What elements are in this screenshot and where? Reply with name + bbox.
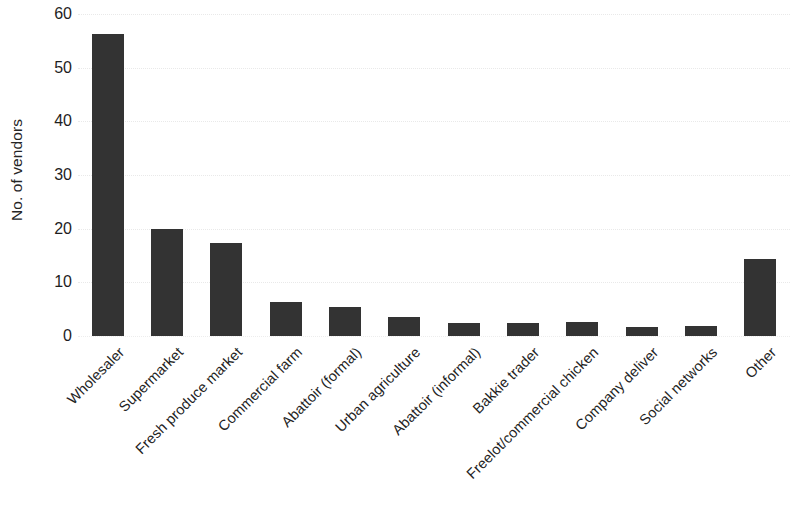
y-axis-tick-label: 50 <box>54 59 72 77</box>
y-axis-tick-label: 10 <box>54 273 72 291</box>
bar[interactable] <box>448 323 480 336</box>
plot-area <box>78 14 790 336</box>
y-axis-title: No. of vendors <box>0 0 34 340</box>
gridline <box>78 229 790 230</box>
gridline <box>78 282 790 283</box>
bar[interactable] <box>92 34 124 336</box>
x-axis-tick-label-text: Fresh produce market <box>133 344 246 457</box>
gridline <box>78 121 790 122</box>
y-axis-tick-label: 60 <box>54 5 72 23</box>
y-axis-tick-label: 40 <box>54 112 72 130</box>
bar[interactable] <box>685 326 717 336</box>
bar-chart: No. of vendors 0102030405060 WholesalerS… <box>0 0 799 529</box>
bar[interactable] <box>151 229 183 336</box>
bar[interactable] <box>566 322 598 336</box>
bar[interactable] <box>507 323 539 336</box>
bar[interactable] <box>210 243 242 336</box>
y-axis-tick-label: 30 <box>54 166 72 184</box>
y-axis-title-text: No. of vendors <box>8 119 26 221</box>
bar[interactable] <box>744 259 776 336</box>
gridline <box>78 68 790 69</box>
bar[interactable] <box>626 327 658 336</box>
bar[interactable] <box>270 302 302 336</box>
bar[interactable] <box>388 317 420 336</box>
x-axis-tick-label-text: Wholesaler <box>64 344 127 407</box>
bar[interactable] <box>329 307 361 336</box>
y-axis-tick-label: 0 <box>63 327 72 345</box>
x-axis-tick-label-text: Other <box>742 344 779 381</box>
gridline <box>78 14 790 15</box>
gridline <box>78 175 790 176</box>
x-axis-tick-labels: WholesalerSupermarketFresh produce marke… <box>78 336 790 526</box>
y-axis-tick-label: 20 <box>54 220 72 238</box>
y-axis-tick-labels: 0102030405060 <box>34 0 78 340</box>
